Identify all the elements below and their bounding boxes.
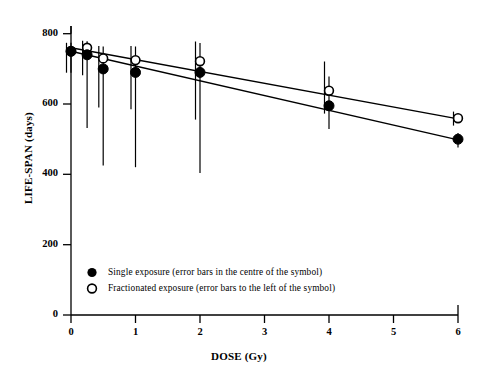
- point-single-1: [82, 50, 92, 60]
- x-tick-label-4: 4: [319, 326, 339, 337]
- fractionated-exposure-fit: [71, 48, 458, 119]
- point-single-0: [66, 46, 76, 56]
- point-frac-5: [325, 86, 334, 95]
- legend-marker-open-circle: [88, 284, 97, 293]
- x-axis-ticks: [71, 315, 458, 323]
- x-tick-label-2: 2: [190, 326, 210, 337]
- point-frac-3: [131, 56, 140, 65]
- point-single-2: [98, 64, 108, 74]
- legend-markers: [87, 268, 96, 293]
- y-tick-label-200: 200: [28, 238, 58, 249]
- point-frac-4: [196, 57, 205, 66]
- point-single-4: [195, 67, 205, 77]
- y-axis-label: LIFE-SPAN (days): [22, 88, 34, 228]
- point-single-6: [453, 134, 463, 144]
- point-frac-6: [454, 114, 463, 123]
- legend-label-single-exposure: Single exposure (error bars in the centr…: [108, 267, 322, 277]
- fit-lines: [71, 48, 458, 140]
- point-single-5: [324, 101, 334, 111]
- legend-marker-filled-circle: [87, 268, 96, 277]
- x-tick-label-3: 3: [255, 326, 275, 337]
- legend-label-fractionated-exposure: Fractionated exposure (error bars to the…: [108, 283, 335, 293]
- x-axis-label: DOSE (Gy): [0, 350, 478, 362]
- y-tick-label-800: 800: [28, 27, 58, 38]
- single-exposure-fit: [71, 51, 458, 140]
- x-tick-label-0: 0: [61, 326, 81, 337]
- point-single-3: [131, 67, 141, 77]
- x-tick-label-5: 5: [384, 326, 404, 337]
- error-bars-single: [71, 41, 458, 173]
- chart-canvas: [0, 0, 478, 377]
- x-tick-label-1: 1: [126, 326, 146, 337]
- y-tick-label-0: 0: [28, 308, 58, 319]
- point-frac-2: [99, 54, 108, 63]
- y-axis-ticks: [63, 34, 71, 315]
- chart-figure: 800 600 400 200 0 0 1 2 3 4 5 6 LIFE-SPA…: [0, 0, 478, 377]
- x-tick-label-6: 6: [448, 326, 468, 337]
